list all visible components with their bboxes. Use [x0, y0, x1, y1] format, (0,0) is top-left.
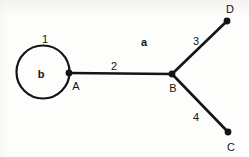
edge-label-3: 3 — [193, 36, 199, 47]
vertex-dot-b — [169, 71, 176, 78]
vertex-dot-d — [224, 18, 231, 25]
vertex-group — [66, 18, 232, 136]
vertex-label-a: A — [72, 81, 79, 92]
graph-figure: 1 2 3 4 b a A B C D — [0, 0, 249, 157]
vertex-dot-a — [66, 70, 73, 77]
edge-a-b — [69, 73, 172, 74]
edge-b-c — [172, 74, 228, 132]
edge-label-1: 1 — [42, 34, 48, 45]
vertex-dot-c — [225, 129, 232, 136]
edge-label-2: 2 — [111, 61, 117, 72]
face-label-a: a — [141, 37, 147, 48]
vertex-label-b: B — [169, 83, 176, 94]
vertex-label-d: D — [226, 4, 234, 15]
face-label-b: b — [38, 69, 45, 80]
vertex-label-c: C — [227, 142, 235, 153]
edge-b-d — [172, 21, 227, 74]
edge-label-4: 4 — [193, 112, 199, 123]
